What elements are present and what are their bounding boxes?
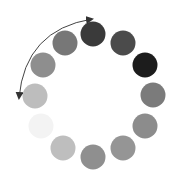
spinner-dot-10 — [23, 84, 48, 109]
spinner-dots — [23, 22, 166, 170]
spinner-dot-6 — [111, 136, 136, 161]
spinner-dot-11 — [31, 53, 56, 78]
spinner-dot-9 — [29, 114, 54, 139]
spinner-dot-7 — [81, 145, 106, 170]
spinner-dot-3 — [133, 53, 158, 78]
spinner-dot-12 — [53, 31, 78, 56]
spinner-dot-1 — [81, 22, 106, 47]
spinner-dot-8 — [51, 136, 76, 161]
spinner-graphic — [0, 0, 175, 181]
spinner-diagram — [0, 0, 175, 181]
spinner-dot-4 — [141, 83, 166, 108]
spinner-dot-5 — [133, 114, 158, 139]
spinner-dot-2 — [111, 31, 136, 56]
